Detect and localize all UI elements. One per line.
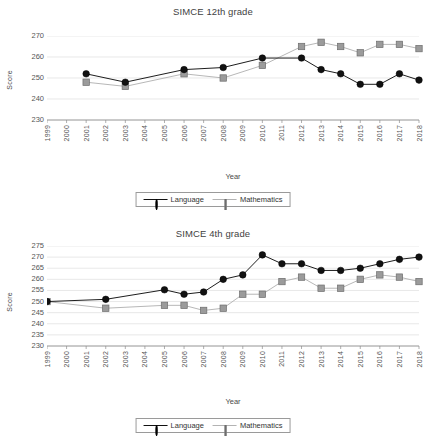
y-tick-label: 240 [1, 320, 44, 328]
data-point-language [220, 276, 227, 283]
y-tick-label: 270 [1, 253, 44, 261]
x-tick-label: 2003 [122, 351, 129, 367]
data-point-language [416, 77, 423, 84]
y-tick-label: 255 [1, 286, 44, 294]
x-axis-label: Year [47, 172, 419, 181]
data-point-language [239, 272, 246, 279]
legend-label-language: Language [171, 195, 204, 204]
x-tick-label: 2001 [83, 351, 90, 367]
x-tick-label: 2017 [396, 351, 403, 367]
legend-item-language[interactable]: Language [144, 421, 204, 430]
data-point-language [377, 260, 384, 267]
data-point-mathematics [337, 285, 343, 291]
data-point-language [102, 296, 109, 303]
data-point-language [259, 55, 266, 62]
plot-area [47, 246, 425, 356]
legend-label-language: Language [171, 421, 204, 430]
data-point-language [337, 71, 344, 78]
legend-label-mathematics: Mathematics [240, 195, 283, 204]
data-point-language [357, 81, 364, 88]
x-tick-label: 2010 [259, 125, 266, 141]
y-tick-label: 260 [1, 53, 44, 61]
x-tick-label: 2007 [200, 351, 207, 367]
x-tick-label: 2014 [337, 351, 344, 367]
x-tick-label: 2011 [278, 125, 285, 141]
x-tick-label: 2010 [259, 351, 266, 367]
data-point-language [161, 286, 168, 293]
data-point-language [416, 254, 423, 261]
square-marker-icon [225, 199, 227, 210]
x-tick-label: 2002 [102, 351, 109, 367]
data-point-mathematics [83, 79, 89, 85]
data-point-mathematics [298, 43, 304, 49]
data-point-language [122, 79, 129, 86]
chart-title: SIMCE 12th grade [0, 6, 426, 17]
plot-svg [47, 36, 425, 130]
x-tick-label: 2001 [83, 125, 90, 141]
x-tick-label: 2018 [416, 351, 423, 367]
data-point-mathematics [377, 41, 383, 47]
y-tick-label: 235 [1, 331, 44, 339]
x-tick-label: 2000 [63, 351, 70, 367]
data-point-mathematics [200, 307, 206, 313]
x-tick-label: 2000 [63, 125, 70, 141]
data-point-mathematics [161, 302, 167, 308]
legend-key-language [144, 195, 168, 204]
y-tick-label: 250 [1, 74, 44, 82]
data-point-mathematics [357, 276, 363, 282]
x-tick-label: 2011 [278, 351, 285, 367]
x-tick-label: 2018 [416, 125, 423, 141]
square-marker-icon [225, 425, 227, 436]
x-tick-label: 2004 [141, 351, 148, 367]
y-tick-label: 270 [1, 32, 44, 40]
y-tick-label: 250 [1, 298, 44, 306]
plot-area [47, 36, 425, 130]
x-tick-label: 2012 [298, 351, 305, 367]
y-tick-label: 265 [1, 264, 44, 272]
data-point-mathematics [416, 45, 422, 51]
data-point-mathematics [377, 272, 383, 278]
x-tick-label: 2007 [200, 125, 207, 141]
circle-marker-icon [156, 425, 158, 436]
data-point-mathematics [318, 285, 324, 291]
data-point-language [181, 66, 188, 73]
data-point-language [396, 256, 403, 263]
chart-legend: Language Mathematics [136, 192, 291, 207]
y-tick-label: 275 [1, 242, 44, 250]
data-point-mathematics [181, 302, 187, 308]
y-tick-label: 245 [1, 309, 44, 317]
x-tick-label: 2017 [396, 125, 403, 141]
x-tick-label: 2006 [181, 351, 188, 367]
x-tick-label: 2003 [122, 125, 129, 141]
chart-title: SIMCE 4th grade [0, 228, 426, 239]
series-line-language [86, 58, 419, 84]
legend-key-mathematics [213, 421, 237, 430]
data-point-language [298, 55, 305, 62]
x-tick-label: 2016 [376, 351, 383, 367]
x-tick-label: 2009 [239, 125, 246, 141]
x-tick-label: 2009 [239, 351, 246, 367]
x-tick-label: 2002 [102, 125, 109, 141]
data-point-mathematics [318, 39, 324, 45]
legend-item-mathematics[interactable]: Mathematics [213, 195, 283, 204]
x-tick-label: 2008 [220, 351, 227, 367]
x-tick-label: 2008 [220, 125, 227, 141]
figure-container: SIMCE 12th grade Score 230240250260270 1… [0, 0, 426, 444]
x-tick-label: 2005 [161, 125, 168, 141]
data-point-mathematics [259, 291, 265, 297]
data-point-language [298, 260, 305, 267]
legend-item-language[interactable]: Language [144, 195, 204, 204]
data-point-language [396, 71, 403, 78]
data-point-language [318, 66, 325, 73]
data-point-mathematics [259, 62, 265, 68]
data-point-language [377, 81, 384, 88]
data-point-mathematics [220, 305, 226, 311]
chart-legend: Language Mathematics [136, 418, 291, 433]
data-point-language [337, 267, 344, 274]
legend-item-mathematics[interactable]: Mathematics [213, 421, 283, 430]
data-point-language [83, 71, 90, 78]
y-tick-label: 230 [1, 342, 44, 350]
x-tick-label: 2013 [318, 125, 325, 141]
data-point-language [279, 260, 286, 267]
data-point-mathematics [396, 41, 402, 47]
